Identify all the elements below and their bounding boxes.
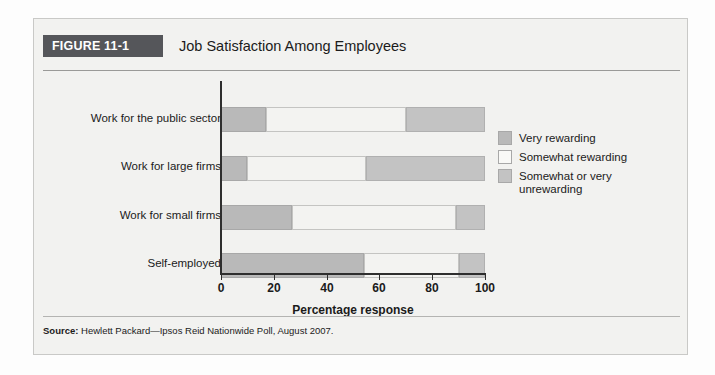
legend-item-somewhat-rewarding: Somewhat rewarding	[498, 150, 678, 164]
source-text: Hewlett Packard—Ipsos Reid Nationwide Po…	[78, 325, 333, 336]
segment-very-rewarding	[221, 107, 266, 132]
segment-somewhat-rewarding	[292, 205, 456, 230]
bar-large-firms	[221, 156, 485, 181]
category-label-small-firms: Work for small firms	[0, 209, 221, 221]
category-label-self-employed: Self-employed	[0, 257, 221, 269]
x-tick-label-60: 60	[372, 281, 385, 295]
segment-somewhat-rewarding	[247, 156, 366, 181]
segment-somewhat-or-very-unrewarding	[366, 156, 485, 181]
segment-somewhat-rewarding	[266, 107, 406, 132]
x-tick-label-100: 100	[475, 281, 495, 295]
chart-legend: Very rewarding Somewhat rewarding Somewh…	[498, 131, 678, 200]
x-axis-line	[220, 273, 486, 275]
segment-very-rewarding	[221, 156, 247, 181]
category-label-large-firms: Work for large firms	[0, 160, 221, 172]
x-tick-label-80: 80	[425, 281, 438, 295]
x-tick-label-20: 20	[267, 281, 280, 295]
y-axis-line	[220, 81, 222, 274]
bar-small-firms	[221, 205, 485, 230]
legend-label-somewhat-or-very-unrewarding: Somewhat or very unrewarding	[519, 169, 678, 195]
segment-somewhat-or-very-unrewarding	[406, 107, 485, 132]
segment-very-rewarding	[221, 205, 292, 230]
source-label: Source:	[43, 325, 78, 336]
category-label-public-sector: Work for the public sector	[0, 112, 221, 124]
x-axis-title: Percentage response	[220, 303, 486, 317]
legend-swatch-somewhat-rewarding	[498, 150, 512, 164]
figure-container: FIGURE 11-1 Job Satisfaction Among Emplo…	[33, 18, 688, 355]
source-divider	[43, 316, 680, 317]
source-note: Source: Hewlett Packard—Ipsos Reid Natio…	[43, 325, 333, 336]
x-tick-80	[432, 275, 433, 280]
x-tick-20	[274, 275, 275, 280]
legend-label-somewhat-rewarding: Somewhat rewarding	[519, 150, 627, 164]
bar-public-sector	[221, 107, 485, 132]
x-tick-label-40: 40	[320, 281, 333, 295]
x-tick-100	[485, 275, 486, 280]
x-tick-0	[221, 275, 222, 280]
legend-item-somewhat-or-very-unrewarding: Somewhat or very unrewarding	[498, 169, 678, 195]
page-background: FIGURE 11-1 Job Satisfaction Among Emplo…	[0, 0, 715, 375]
x-tick-40	[327, 275, 328, 280]
legend-label-very-rewarding: Very rewarding	[519, 131, 596, 145]
legend-swatch-very-rewarding	[498, 131, 512, 145]
x-tick-label-0: 0	[218, 281, 225, 295]
legend-item-very-rewarding: Very rewarding	[498, 131, 678, 145]
x-tick-60	[379, 275, 380, 280]
legend-swatch-somewhat-or-very-unrewarding	[498, 169, 512, 183]
segment-somewhat-or-very-unrewarding	[456, 205, 485, 230]
chart-plot-area: Work for the public sector Work for larg…	[34, 19, 689, 356]
